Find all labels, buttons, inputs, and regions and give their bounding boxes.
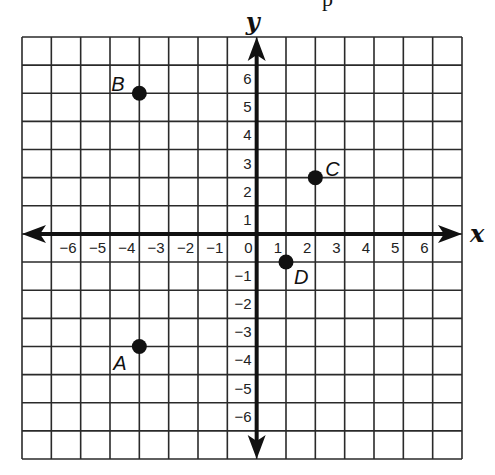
y-tick-label: 6	[243, 70, 251, 87]
x-tick-label: −2	[177, 239, 194, 256]
y-tick-label: 2	[243, 183, 251, 200]
y-tick-label: 1	[243, 211, 251, 228]
x-tick-label: 1	[274, 239, 282, 256]
x-tick-label: 5	[391, 239, 399, 256]
x-tick-label: 2	[303, 239, 311, 256]
x-tick-label: 0	[244, 239, 252, 256]
plotted-points: ABCD	[111, 73, 340, 374]
point-d	[279, 255, 294, 270]
y-tick-label: −4	[235, 351, 252, 368]
y-tick-label: 3	[243, 155, 251, 172]
y-tick-label: −5	[235, 380, 252, 397]
y-axis-label: y	[245, 7, 262, 36]
point-a	[132, 339, 147, 354]
y-tick-label: −1	[235, 267, 252, 284]
point-label-c: C	[325, 158, 340, 180]
x-tick-label: 3	[332, 239, 340, 256]
y-tick-label: −3	[235, 323, 252, 340]
y-tick-label: 5	[243, 98, 251, 115]
point-label-d: D	[294, 266, 308, 288]
y-tick-label: −2	[235, 295, 252, 312]
x-tick-label: −6	[60, 239, 77, 256]
x-tick-label: 6	[420, 239, 428, 256]
x-axis-label: x	[469, 219, 485, 248]
y-tick-label: −6	[235, 408, 252, 425]
x-tick-label: −4	[118, 239, 135, 256]
x-tick-label: −5	[89, 239, 106, 256]
y-tick-label: 4	[243, 126, 251, 143]
point-label-a: A	[112, 352, 126, 374]
coordinate-plane: xy −6−5−4−3−2−10123456654321−1−2−3−4−5−6…	[0, 0, 495, 475]
x-tick-label: −1	[206, 239, 223, 256]
point-label-b: B	[111, 73, 124, 95]
point-b	[132, 86, 147, 101]
axes: xy	[22, 7, 485, 459]
x-tick-label: −3	[148, 239, 165, 256]
x-tick-label: 4	[362, 239, 370, 256]
point-c	[308, 170, 323, 185]
